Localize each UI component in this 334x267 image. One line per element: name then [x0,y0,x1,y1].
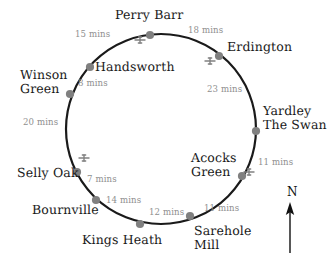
compass-north-label: N [287,186,298,198]
segment-time-label: 8 mins [78,79,108,88]
rail-station-icon [205,58,216,65]
station-label-line: Green [20,82,68,96]
station-label[interactable]: SareholeMill [194,224,252,251]
station-label[interactable]: Perry Barr [115,8,183,21]
station-label-line: Selly Oak [17,166,79,179]
station-label-line: Bournville [32,203,99,216]
station-label[interactable]: Erdington [227,40,292,53]
station-label[interactable]: Selly Oak [17,166,79,179]
station-label-line: Acocks [191,151,236,165]
station-dot[interactable] [186,212,194,220]
station-label[interactable]: Bournville [32,203,99,216]
station-label[interactable]: WinsonGreen [20,68,68,95]
north-arrow-icon [286,202,294,253]
station-label-line: The Swan [263,118,327,132]
station-label-line: Mill [194,238,252,252]
segment-time-label: 11 mins [204,204,239,213]
station-label-line: Handsworth [95,60,175,73]
segment-time-label: 23 mins [207,85,242,94]
station-dot[interactable] [215,52,223,60]
station-label-line: Yardley [263,104,327,118]
route-map-diagram: Perry BarrErdingtonYardleyThe SwanAcocks… [0,0,334,267]
station-dot[interactable] [146,31,154,39]
segment-time-label: 7 mins [87,175,117,184]
station-label[interactable]: Handsworth [95,60,175,73]
station-label-line: Kings Heath [82,233,162,246]
station-dot[interactable] [136,220,144,228]
segment-time-label: 20 mins [23,118,58,127]
station-dot[interactable] [252,127,260,135]
segment-time-label: 15 mins [75,30,110,39]
station-label[interactable]: Kings Heath [82,233,162,246]
segment-time-label: 14 mins [106,196,141,205]
rail-station-icon [79,155,90,162]
station-dot[interactable] [238,172,246,180]
station-label-line: Winson [20,68,68,82]
station-dot[interactable] [86,63,94,71]
station-label[interactable]: YardleyThe Swan [263,104,327,131]
station-label-line: Erdington [227,40,292,53]
station-label-line: Green [191,165,236,179]
segment-time-label: 12 mins [149,208,184,217]
station-label[interactable]: AcocksGreen [191,151,236,178]
station-label-line: Sarehole [194,224,252,238]
segment-time-label: 18 mins [188,26,223,35]
station-label-line: Perry Barr [115,8,183,21]
segment-time-label: 11 mins [258,158,293,167]
